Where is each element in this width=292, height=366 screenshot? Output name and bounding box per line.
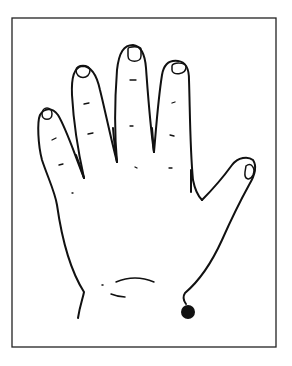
marker-dot bbox=[181, 305, 195, 319]
hand-diagram bbox=[0, 0, 292, 366]
figure-frame bbox=[12, 18, 276, 347]
